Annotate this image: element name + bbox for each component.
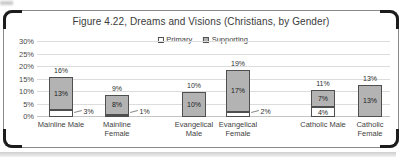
legend-item-primary: Primary	[158, 35, 192, 44]
y-tick-label-15%: 15%	[6, 75, 34, 84]
bar-segment-Mainline Female-supporting: 8%	[105, 95, 129, 115]
total-label-Catholic Male: 11%	[303, 80, 343, 87]
segment-value-label: 7%	[318, 95, 328, 102]
y-tick-label-20%: 20%	[6, 62, 34, 71]
bar-segment-Catholic Female-supporting: 13%	[358, 85, 382, 118]
bar-segment-Catholic Male-supporting: 7%	[311, 90, 335, 108]
y-tick-label-10%: 10%	[6, 87, 34, 96]
gridline-0%	[37, 116, 390, 117]
y-tick-label-30%: 30%	[6, 37, 34, 46]
legend-label-supporting: Supporting	[212, 35, 248, 44]
frame-corner-bottomleft	[3, 129, 22, 148]
total-label-Evangelical Female: 19%	[218, 60, 258, 67]
bar-segment-Mainline Male-supporting: 13%	[49, 77, 73, 110]
bar-segment-Evangelical Female-primary	[226, 112, 250, 117]
chart-title: Figure 4.22, Dreams and Visions (Christi…	[4, 16, 398, 27]
segment-value-label: 13%	[363, 97, 377, 104]
x-axis-label-Catholic Female: Catholic Female	[335, 120, 405, 139]
primary-callout-value: 3%	[84, 108, 94, 115]
segment-value-label: 8%	[112, 101, 122, 108]
total-label-Mainline Male: 16%	[41, 67, 81, 74]
leader-line	[130, 110, 138, 113]
leader-line	[251, 110, 259, 113]
gridline-20%	[37, 66, 390, 67]
primary-callout-Evangelical Female: 2%	[251, 107, 271, 116]
plot-area: Primary Supporting 13%3%16%Mainline Male…	[37, 42, 390, 117]
y-axis: 0%5%10%15%20%25%30%	[6, 42, 34, 117]
total-label-Catholic Female: 13%	[350, 75, 390, 82]
bar-segment-Mainline Female-primary	[105, 115, 129, 118]
primary-callout-Mainline Female: 1%	[130, 107, 150, 116]
primary-callout-value: 1%	[140, 108, 150, 115]
scanned-chart-image: Figure 4.22, Dreams and Visions (Christi…	[0, 0, 405, 161]
primary-callout-value: 2%	[261, 108, 271, 115]
figure-frame: Figure 4.22, Dreams and Visions (Christi…	[3, 10, 399, 148]
total-label-Mainline Female: 9%	[97, 85, 137, 92]
bar-segment-Evangelical Male-supporting: 10%	[182, 92, 206, 117]
gridline-10%	[37, 91, 390, 92]
primary-callout-Mainline Male: 3%	[74, 107, 94, 116]
scan-artifact-streak	[0, 152, 396, 157]
scan-artifact-mark	[0, 1, 13, 5]
legend-item-supporting: Supporting	[203, 35, 248, 44]
bar-segment-Evangelical Female-supporting: 17%	[226, 70, 250, 113]
x-axis-label-Mainline Female: Mainline Female	[82, 120, 152, 139]
gridline-5%	[37, 104, 390, 105]
segment-value-label: 10%	[187, 101, 201, 108]
bar-segment-Mainline Male-primary	[49, 110, 73, 118]
segment-value-label: 17%	[231, 87, 245, 94]
gridline-30%	[37, 41, 390, 42]
y-tick-label-5%: 5%	[6, 100, 34, 109]
y-tick-label-25%: 25%	[6, 50, 34, 59]
total-label-Evangelical Male: 10%	[174, 82, 214, 89]
legend-label-primary: Primary	[166, 35, 192, 44]
segment-value-label: 13%	[54, 90, 68, 97]
segment-value-label: 4%	[318, 109, 328, 116]
gridline-25%	[37, 54, 390, 55]
bar-segment-Catholic Male-primary: 4%	[311, 107, 335, 117]
x-axis-label-Evangelical Female: Evangelical Female	[203, 120, 273, 139]
leader-line	[74, 110, 82, 113]
chart-legend: Primary Supporting	[155, 35, 251, 44]
